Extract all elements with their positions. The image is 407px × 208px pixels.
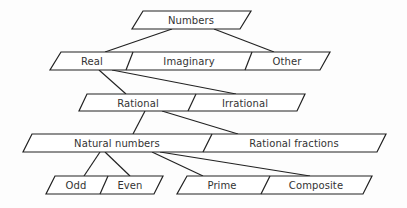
node-rational-fractions: Rational fractions <box>249 138 339 149</box>
node-numbers: Numbers <box>168 15 214 26</box>
node-natural-numbers: Natural numbers <box>74 138 160 149</box>
diagram-shapes <box>0 0 407 208</box>
node-composite: Composite <box>289 180 343 191</box>
node-imaginary: Imaginary <box>163 56 214 67</box>
node-even: Even <box>117 180 142 191</box>
node-rational: Rational <box>117 98 159 109</box>
node-other: Other <box>273 56 302 67</box>
node-irrational: Irrational <box>222 98 268 109</box>
node-real: Real <box>81 56 103 67</box>
number-classification-diagram: Numbers Real Imaginary Other Rational Ir… <box>0 0 407 208</box>
node-odd: Odd <box>66 180 87 191</box>
node-prime: Prime <box>207 180 236 191</box>
